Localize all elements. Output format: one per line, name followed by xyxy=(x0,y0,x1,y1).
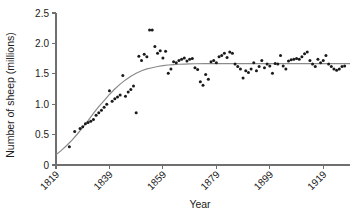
data-point xyxy=(183,56,186,59)
data-point xyxy=(111,100,114,103)
y-tick-label: 2.0 xyxy=(35,38,49,49)
data-point xyxy=(68,145,71,148)
data-point xyxy=(180,58,183,61)
data-point xyxy=(172,60,175,63)
data-point xyxy=(276,63,279,66)
data-point xyxy=(108,89,111,92)
data-point xyxy=(193,66,196,69)
x-tick-label: 1839 xyxy=(91,168,115,192)
data-point xyxy=(79,127,82,130)
data-point xyxy=(263,66,266,69)
data-point xyxy=(161,56,164,59)
data-point xyxy=(92,118,95,121)
data-point xyxy=(204,73,207,76)
data-point xyxy=(223,52,226,55)
data-point xyxy=(298,58,301,61)
data-point xyxy=(319,61,322,64)
data-point xyxy=(268,64,271,67)
data-point xyxy=(220,54,223,57)
sheep-population-chart: 00.51.01.52.02.5 18191839185918791899191… xyxy=(0,0,361,214)
y-tick-label: 2.5 xyxy=(35,8,49,19)
data-point xyxy=(295,57,298,60)
data-point xyxy=(135,111,138,114)
x-tick-label: 1859 xyxy=(145,168,169,192)
data-point xyxy=(255,69,258,72)
data-point xyxy=(218,55,221,58)
data-point xyxy=(287,60,290,63)
data-point xyxy=(292,58,295,61)
data-point xyxy=(159,49,162,52)
data-point xyxy=(284,67,287,70)
data-point xyxy=(247,71,250,74)
data-point xyxy=(143,53,146,56)
data-point xyxy=(167,72,170,75)
data-point xyxy=(140,59,143,62)
data-point xyxy=(151,29,154,32)
x-axis-tick-marks xyxy=(56,165,323,169)
data-point xyxy=(89,120,92,123)
data-point xyxy=(185,60,188,63)
data-point xyxy=(290,58,293,61)
data-point xyxy=(343,64,346,67)
y-axis-title: Number of sheep (millions) xyxy=(4,32,16,157)
y-axis-tick-marks xyxy=(52,13,56,165)
data-point xyxy=(274,62,277,65)
data-point xyxy=(116,95,119,98)
data-point xyxy=(282,64,285,67)
data-point xyxy=(119,94,122,97)
data-point xyxy=(234,63,237,66)
data-point xyxy=(129,88,132,91)
data-point xyxy=(252,61,255,64)
logistic-fit-curve xyxy=(56,64,350,155)
data-point xyxy=(81,125,84,128)
data-point xyxy=(335,69,338,72)
data-point xyxy=(327,63,330,66)
data-point xyxy=(207,78,210,81)
data-point xyxy=(308,59,311,62)
data-point xyxy=(84,122,87,125)
data-point xyxy=(95,114,98,117)
data-point xyxy=(266,63,269,66)
y-axis-tick-labels: 00.51.01.52.02.5 xyxy=(35,8,49,171)
data-point xyxy=(97,111,100,114)
data-point xyxy=(236,65,239,68)
data-point xyxy=(212,59,215,62)
data-point xyxy=(311,63,314,66)
data-point xyxy=(177,59,180,62)
data-point xyxy=(330,65,333,68)
data-point xyxy=(132,84,135,87)
y-tick-label: 0 xyxy=(43,160,49,171)
data-point xyxy=(113,97,116,100)
data-point xyxy=(153,45,156,48)
data-point xyxy=(316,58,319,61)
data-point xyxy=(226,56,229,59)
data-point xyxy=(103,106,106,109)
data-point xyxy=(73,130,76,133)
chart-canvas: 00.51.01.52.02.5 18191839185918791899191… xyxy=(0,0,361,214)
x-tick-label: 1919 xyxy=(305,168,329,192)
data-point xyxy=(322,59,325,62)
data-point xyxy=(258,65,261,68)
data-point xyxy=(137,55,140,58)
data-point xyxy=(228,50,231,53)
x-axis-tick-labels: 181918391859187918991919 xyxy=(38,168,329,192)
x-tick-label: 1899 xyxy=(252,168,276,192)
data-point xyxy=(215,61,218,64)
data-point xyxy=(188,58,191,61)
data-point xyxy=(303,52,306,55)
data-point xyxy=(164,50,167,53)
data-point xyxy=(175,61,178,64)
data-point xyxy=(199,80,202,83)
data-point xyxy=(260,59,263,62)
data-point xyxy=(210,60,213,63)
data-point xyxy=(156,52,159,55)
data-point xyxy=(231,52,234,55)
data-point xyxy=(124,95,127,98)
data-point xyxy=(242,77,245,80)
data-point xyxy=(239,67,242,70)
data-point xyxy=(250,67,253,70)
x-axis-title: Year xyxy=(189,198,211,210)
data-point xyxy=(87,121,90,124)
data-point xyxy=(191,57,194,60)
y-tick-label: 1.5 xyxy=(35,68,49,79)
